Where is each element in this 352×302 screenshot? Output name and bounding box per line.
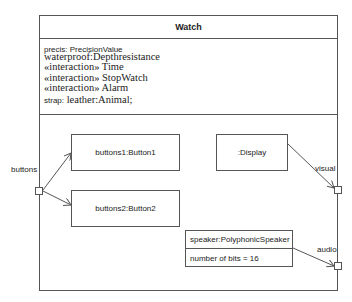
diagram-canvas: Watch precis: PrecisionValue waterproof:… [0,0,352,302]
part-speaker[interactable]: speaker:PolyphonicSpeaker number of bits… [185,230,293,267]
connector-buttons-to-buttons1 [43,153,71,190]
part-label: buttons1:Button1 [95,148,156,157]
part-buttons1[interactable]: buttons1:Button1 [71,134,180,171]
port-visual[interactable] [334,186,342,194]
part-buttons2[interactable]: buttons2:Button2 [71,190,180,227]
port-label-visual: visual [315,164,335,173]
connector-buttons-to-buttons2 [43,191,71,205]
part-label: buttons2:Button2 [95,204,156,213]
part-label: :Display [238,148,266,157]
port-buttons[interactable] [35,187,43,195]
part-speaker-name: speaker:PolyphonicSpeaker [186,231,292,249]
part-speaker-attribute: number of bits = 16 [186,249,292,267]
port-label-buttons: buttons [11,165,37,174]
port-audio[interactable] [334,262,342,270]
port-label-audio: audio [317,245,337,254]
part-display[interactable]: :Display [216,134,288,171]
